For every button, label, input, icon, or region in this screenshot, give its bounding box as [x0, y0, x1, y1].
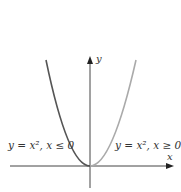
y-axis-arrow-icon	[87, 56, 93, 64]
left-branch-label: y = x², x ≤ 0	[7, 139, 75, 151]
x-axis-arrow-icon	[166, 163, 174, 169]
right-branch-label: y = x², x ≥ 0	[114, 139, 181, 151]
y-axis-label: y	[95, 53, 102, 64]
x-axis-label: x	[167, 151, 173, 162]
parabola-diagram: y x y = x², x ≤ 0 y = x², x ≥ 0	[0, 0, 181, 192]
y-axis	[87, 56, 93, 188]
